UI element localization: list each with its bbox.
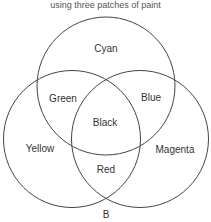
region-label-cyan: Cyan bbox=[94, 43, 117, 54]
region-label-blue: Blue bbox=[141, 92, 161, 103]
region-label-magenta: Magenta bbox=[156, 144, 195, 155]
venn-diagram bbox=[0, 0, 211, 222]
region-label-green: Green bbox=[49, 93, 77, 104]
circle-cyan bbox=[37, 17, 175, 155]
region-label-red: Red bbox=[97, 164, 115, 175]
region-label-yellow: Yellow bbox=[26, 143, 55, 154]
figure-label: B bbox=[103, 209, 110, 220]
region-label-black: Black bbox=[93, 117, 117, 128]
